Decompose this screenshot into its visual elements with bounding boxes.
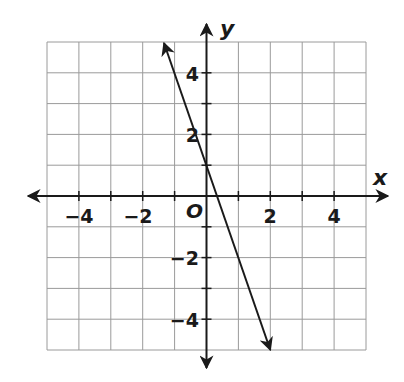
x-tick-label: −4: [64, 205, 93, 227]
x-tick-label: 2: [263, 205, 276, 227]
y-tick-label: 2: [186, 124, 199, 146]
coordinate-plane: y x O −4 −2 2 4 4 2 −2 −4: [0, 0, 404, 382]
x-axis-label: x: [372, 165, 388, 190]
y-tick-label: 4: [186, 63, 199, 85]
x-tick-label: −2: [123, 205, 152, 227]
origin-label: O: [186, 199, 203, 223]
y-tick-label: −4: [170, 309, 199, 331]
y-axis-label: y: [220, 16, 236, 41]
x-tick-label: 4: [327, 205, 340, 227]
y-tick-label: −2: [170, 247, 199, 269]
